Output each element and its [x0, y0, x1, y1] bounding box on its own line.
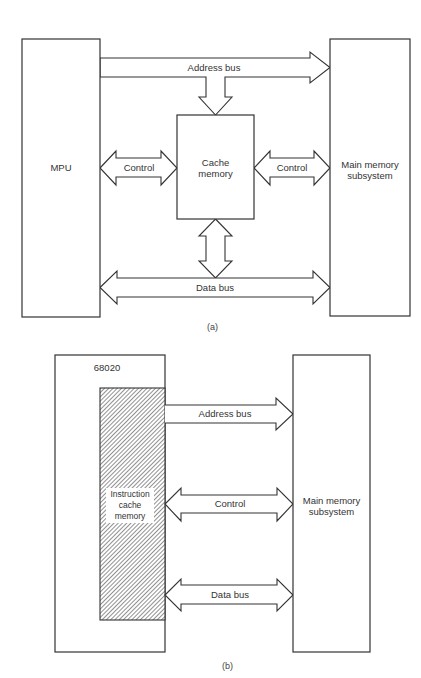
processor-68020-label: 68020 [85, 362, 129, 373]
control-left-label-a: Control [112, 162, 166, 173]
cache-label-line2: memory [177, 168, 254, 179]
icache-line3: memory [106, 511, 154, 522]
diagram-canvas [0, 0, 421, 678]
cache-label-line1: Cache [177, 157, 254, 168]
caption-b: (b) [222, 661, 233, 671]
control-right-label-a: Control [265, 162, 319, 173]
cache-memory-label: Cache memory [177, 157, 254, 179]
main-memory-b-line1: Main memory [293, 495, 370, 506]
address-bus-label-b: Address bus [185, 408, 265, 419]
instruction-cache-label: Instruction cache memory [106, 489, 154, 522]
main-memory-a-line1: Main memory [330, 159, 410, 170]
address-bus-label-a: Address bus [150, 62, 278, 73]
caption-a: (a) [207, 322, 218, 332]
main-memory-b-line2: subsystem [293, 506, 370, 517]
control-label-b: Control [195, 498, 265, 509]
mpu-box [22, 39, 100, 317]
main-memory-label-a: Main memory subsystem [330, 159, 410, 181]
cache-data-link-arrow-a [199, 219, 232, 278]
data-bus-label-a: Data bus [170, 282, 260, 293]
main-memory-a-line2: subsystem [330, 170, 410, 181]
icache-line2: cache [106, 500, 154, 511]
icache-line1: Instruction [106, 489, 154, 500]
main-memory-label-b: Main memory subsystem [293, 495, 370, 517]
data-bus-label-b: Data bus [190, 589, 270, 600]
mpu-label: MPU [22, 162, 100, 173]
